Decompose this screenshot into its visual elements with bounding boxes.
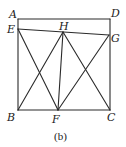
label-A: A xyxy=(8,8,17,21)
diagram-canvas: A D E H G B F C (b) xyxy=(0,0,126,147)
segment-EF xyxy=(18,29,58,110)
segment-HF xyxy=(58,32,63,110)
figure-caption: (b) xyxy=(54,130,67,143)
label-E: E xyxy=(6,23,15,36)
segment-FG xyxy=(58,35,109,110)
label-F: F xyxy=(51,113,60,126)
label-D: D xyxy=(110,7,120,20)
label-B: B xyxy=(6,111,15,124)
label-H: H xyxy=(58,20,69,33)
geometry-figure: A D E H G B F C (b) xyxy=(0,0,126,147)
label-C: C xyxy=(107,111,116,124)
label-G: G xyxy=(111,32,120,45)
